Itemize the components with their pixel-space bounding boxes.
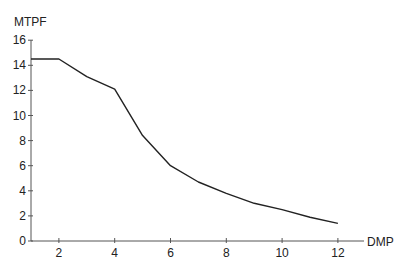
y-tick-label: 16 bbox=[13, 33, 27, 47]
y-axis-label: MTPF bbox=[14, 15, 47, 29]
series-line bbox=[31, 59, 338, 223]
y-tick-label: 10 bbox=[13, 109, 27, 123]
y-tick-label: 6 bbox=[19, 159, 26, 173]
x-tick-label: 8 bbox=[223, 246, 230, 260]
y-tick-label: 0 bbox=[19, 234, 26, 248]
y-tick-label: 2 bbox=[19, 209, 26, 223]
x-axis-label: DMP bbox=[367, 235, 394, 249]
x-tick-label: 4 bbox=[111, 246, 118, 260]
x-tick-label: 6 bbox=[167, 246, 174, 260]
y-tick-label: 12 bbox=[13, 83, 27, 97]
line-chart: 0246810121416 24681012 MTPF DMP bbox=[0, 0, 406, 272]
y-tick-label: 4 bbox=[19, 184, 26, 198]
plot-area bbox=[31, 59, 338, 223]
x-axis: 24681012 bbox=[31, 238, 364, 260]
y-tick-label: 14 bbox=[13, 58, 27, 72]
x-tick-label: 12 bbox=[331, 246, 345, 260]
y-tick-label: 8 bbox=[19, 134, 26, 148]
y-axis: 0246810121416 bbox=[13, 33, 33, 248]
x-tick-label: 10 bbox=[275, 246, 289, 260]
x-tick-label: 2 bbox=[56, 246, 63, 260]
